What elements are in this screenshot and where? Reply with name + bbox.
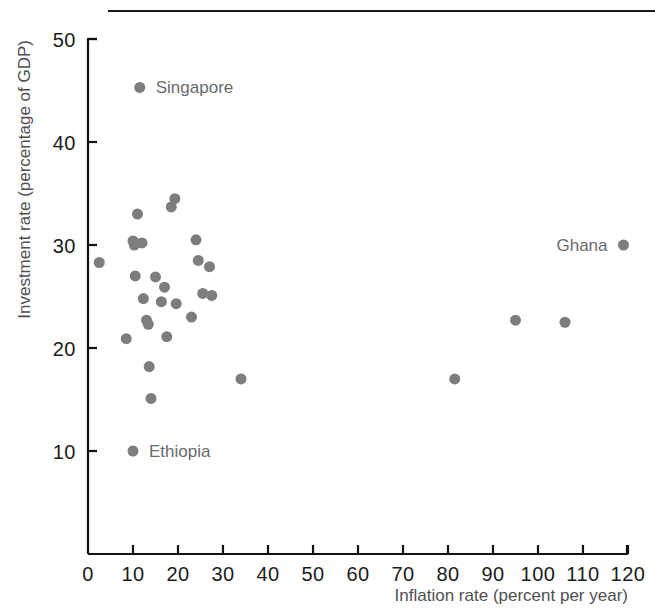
x-tick-label: 40 (256, 563, 279, 585)
data-point-label-ethiopia: Ethiopia (149, 442, 211, 461)
data-point (94, 257, 105, 268)
data-point (161, 331, 172, 342)
data-point (121, 333, 132, 344)
y-axis-title: Investment rate (percentage of GDP) (15, 40, 34, 319)
data-point (144, 361, 155, 372)
data-point (156, 296, 167, 307)
data-point (510, 315, 521, 326)
data-point (137, 237, 148, 248)
data-point (138, 293, 149, 304)
x-tick-label: 70 (391, 563, 414, 585)
data-point-label-singapore: Singapore (156, 78, 234, 97)
data-point (206, 290, 217, 301)
data-point-ethiopia (128, 446, 139, 457)
data-point (146, 393, 157, 404)
data-point (204, 261, 215, 272)
data-points-layer: EthiopiaSingaporeGhana (94, 78, 629, 461)
data-point (130, 270, 141, 281)
x-tick-label: 30 (211, 563, 234, 585)
data-point-singapore (134, 82, 145, 93)
data-point (186, 312, 197, 323)
y-tick-label: 50 (53, 29, 76, 51)
data-point (191, 234, 202, 245)
x-tick-label: 80 (436, 563, 459, 585)
x-axis-title: Inflation rate (percent per year) (395, 586, 628, 605)
x-tick-label: 110 (566, 563, 599, 585)
chart-canvas: 1020304050 0102030405060708090100110120 … (0, 0, 655, 616)
data-point (449, 373, 460, 384)
y-tick-label: 10 (53, 441, 76, 463)
y-tick-label: 30 (53, 235, 76, 257)
data-point (159, 282, 170, 293)
data-point (150, 271, 161, 282)
y-tick-label: 40 (53, 132, 76, 154)
y-tick-label: 20 (53, 338, 76, 360)
data-point (143, 319, 154, 330)
data-point (171, 298, 182, 309)
x-tick-label: 60 (346, 563, 369, 585)
x-tick-label: 20 (166, 563, 189, 585)
data-point (132, 209, 143, 220)
x-tick-label: 10 (121, 563, 144, 585)
data-point (169, 193, 180, 204)
x-tick-label: 100 (521, 563, 556, 585)
scatter-chart-figure: 1020304050 0102030405060708090100110120 … (0, 0, 655, 616)
data-point (193, 255, 204, 266)
y-axis-ticks: 1020304050 (53, 29, 97, 463)
data-point (560, 317, 571, 328)
x-axis-ticks: 0102030405060708090100110120 (82, 545, 645, 585)
data-point-label-ghana: Ghana (556, 236, 608, 255)
data-point (236, 373, 247, 384)
x-tick-label: 0 (82, 563, 94, 585)
x-tick-label: 120 (611, 563, 646, 585)
x-tick-label: 50 (301, 563, 324, 585)
x-tick-label: 90 (481, 563, 504, 585)
data-point-ghana (618, 240, 629, 251)
